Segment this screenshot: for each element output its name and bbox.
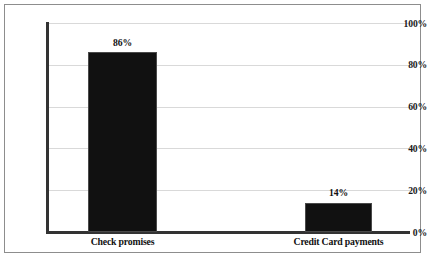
- y-tick-label-80: 80%: [387, 59, 427, 70]
- y-axis-line: [46, 22, 49, 233]
- bar-chart: 100% 80% 60% 40% 20% 0% 86% Check promis…: [0, 0, 427, 260]
- bar-value-check-promises: 86%: [91, 37, 154, 49]
- category-label-credit-card-payments: Credit Card payments: [283, 236, 394, 248]
- y-tick-label-20: 20%: [387, 185, 427, 196]
- bar-credit-card-payments[interactable]: [305, 203, 372, 232]
- category-label-check-promises: Check promises: [63, 236, 183, 248]
- y-tick-label-100: 100%: [387, 18, 427, 29]
- bar-check-promises[interactable]: [88, 52, 157, 232]
- y-tick-label-40: 40%: [387, 143, 427, 154]
- gridline-100: [48, 23, 410, 24]
- bar-value-credit-card-payments: 14%: [308, 187, 370, 199]
- y-tick-label-60: 60%: [387, 101, 427, 112]
